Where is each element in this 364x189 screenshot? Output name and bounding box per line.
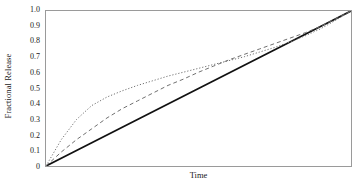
- chart-figure: Fractional Release 1.00.90.80.70.60.50.4…: [0, 0, 364, 189]
- y-tick-label: 0.2: [30, 132, 40, 140]
- y-tick-label: 0.9: [30, 22, 40, 30]
- plot-curves: [46, 11, 351, 166]
- x-axis-title: Time: [45, 170, 352, 180]
- y-tick-label: 0.3: [30, 116, 40, 124]
- y-tick-label: 0.1: [30, 147, 40, 155]
- y-tick-label: 0.5: [30, 85, 40, 93]
- y-tick-label: 0.6: [30, 69, 40, 77]
- y-tick-label: 0.8: [30, 37, 40, 45]
- y-axis-title-label: Fractional Release: [3, 54, 13, 119]
- series-line: [46, 11, 351, 166]
- y-axis-tick-labels: 1.00.90.80.70.60.50.40.30.20.10: [16, 0, 43, 189]
- y-axis-title: Fractional Release: [0, 0, 16, 172]
- y-tick-label: 1.0: [30, 6, 40, 14]
- y-tick-label: 0.7: [30, 53, 40, 61]
- y-tick-label: 0: [36, 163, 40, 171]
- plot-area: [45, 10, 352, 167]
- y-tick-label: 0.4: [30, 100, 40, 108]
